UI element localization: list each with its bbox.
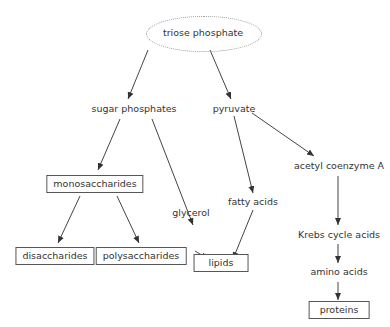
- node-disaccharides: disaccharides: [15, 247, 94, 265]
- node-acetyl-coenzyme-a: acetyl coenzyme A: [294, 160, 384, 172]
- node-lipids: lipids: [194, 254, 249, 272]
- node-sugar-phosphates: sugar phosphates: [92, 103, 177, 115]
- node-proteins: proteins: [309, 301, 370, 319]
- node-glycerol: glycerol: [172, 207, 210, 219]
- node-fatty-acids: fatty acids: [228, 196, 278, 208]
- node-krebs-cycle-acids: Krebs cycle acids: [298, 229, 380, 241]
- node-amino-acids: amino acids: [310, 266, 367, 278]
- node-polysaccharides: polysaccharides: [96, 247, 187, 265]
- node-pyruvate: pyruvate: [213, 103, 256, 115]
- node-triose-phosphate: triose phosphate: [163, 27, 243, 39]
- node-monosaccharides: monosaccharides: [46, 175, 143, 193]
